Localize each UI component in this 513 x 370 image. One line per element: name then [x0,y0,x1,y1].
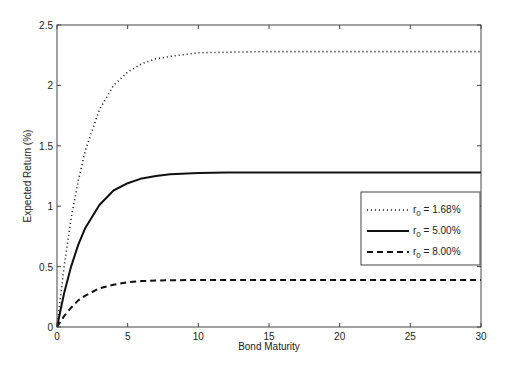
y-tick-label: 0.5 [39,262,53,273]
x-tick-label: 20 [334,331,346,342]
y-tick-label: 2 [47,80,53,91]
series-line-dotted [57,52,481,327]
x-axis-label: Bond Maturity [238,341,300,352]
x-tick-label: 25 [405,331,417,342]
series-line-dashed [57,280,481,327]
x-tick-label: 10 [193,331,205,342]
y-axis-label: Expected Return (%) [22,130,33,223]
y-tick-label: 1 [47,201,53,212]
y-tick-label: 0 [47,322,53,333]
y-tick-label: 2.5 [39,20,53,31]
x-tick-label: 30 [475,331,487,342]
legend: r0 = 1.68%r0 = 5.00%r0 = 8.00% [361,192,480,265]
line-chart: 05101520253000.511.522.5 Bond Maturity E… [0,0,513,370]
x-tick-label: 5 [125,331,131,342]
plot-frame [57,25,481,327]
x-tick-label: 0 [54,331,60,342]
y-tick-label: 1.5 [39,141,53,152]
